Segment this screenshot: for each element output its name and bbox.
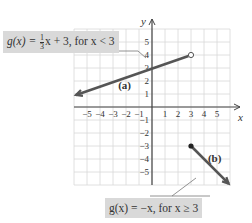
- x-tick-label: −3: [108, 109, 118, 119]
- x-tick-label: −2: [121, 109, 131, 119]
- y-tick-label: 1: [145, 89, 150, 99]
- open-circle-endpoint: [188, 52, 193, 57]
- x-tick-label: 2: [176, 109, 181, 119]
- y-tick-label: −4: [139, 154, 149, 164]
- x-tick-label: −5: [82, 109, 92, 119]
- x-axis-label: x: [237, 111, 243, 123]
- y-tick-label: 5: [145, 37, 150, 47]
- equation-a-rest: x + 3, for x < 3: [45, 35, 115, 47]
- fraction-one-third: 1 3: [40, 34, 44, 51]
- y-tick-label: −1: [139, 115, 149, 125]
- x-tick-label: 1: [163, 109, 168, 119]
- y-tick-label: 2: [145, 76, 150, 86]
- x-tick-label: 5: [215, 109, 220, 119]
- y-tick-label: 4: [145, 50, 150, 60]
- series-a-tag: (a): [118, 79, 131, 92]
- series-a-line: [76, 56, 189, 95]
- equation-a-lhs: g(x) =: [7, 35, 36, 47]
- equation-b-text: g(x) = −x, for x ≥ 3: [109, 202, 198, 214]
- callout-line-b: [172, 178, 196, 196]
- closed-dot-endpoint: [188, 143, 193, 148]
- y-tick-label: −3: [139, 141, 149, 151]
- y-axis-label: y: [140, 15, 146, 27]
- x-tick-label: 3: [189, 109, 194, 119]
- y-tick-label: −5: [139, 167, 149, 177]
- equation-label-b: g(x) = −x, for x ≥ 3: [105, 198, 202, 218]
- series-b-tag: (b): [208, 152, 222, 165]
- x-tick-label: −4: [95, 109, 105, 119]
- equation-label-a: g(x) = 1 3 x + 3, for x < 3: [3, 31, 119, 53]
- y-tick-label: −2: [139, 128, 149, 138]
- x-tick-label: 4: [202, 109, 207, 119]
